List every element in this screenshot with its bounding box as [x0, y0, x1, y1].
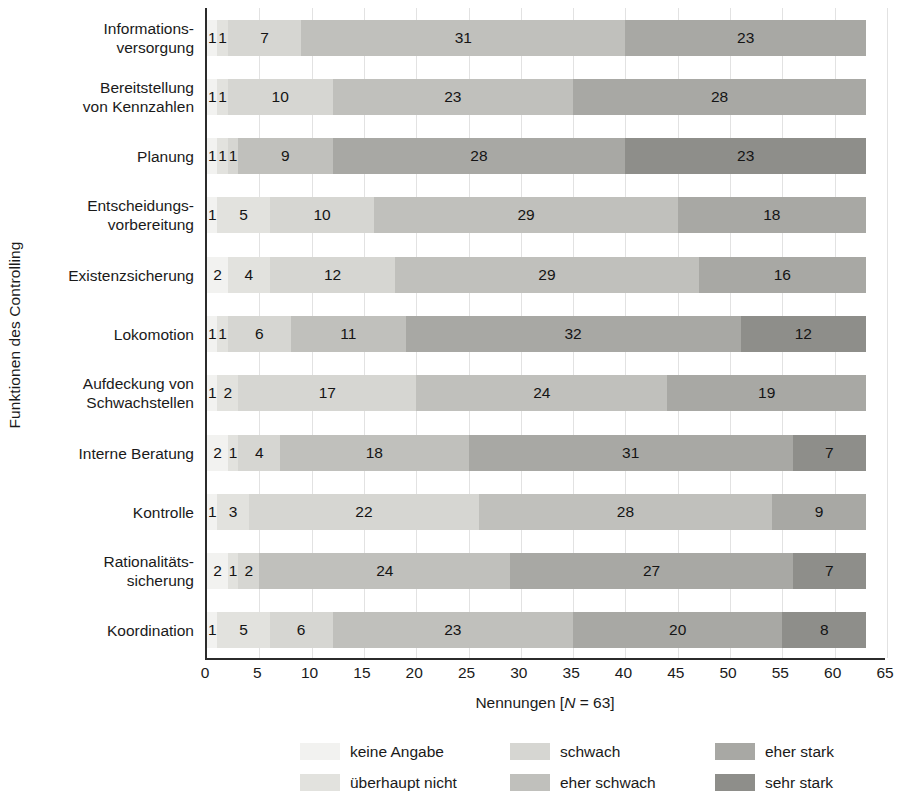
legend-item[interactable]: schwach	[510, 743, 715, 761]
bar-segment-value: 1	[229, 562, 238, 580]
bar-segment: 6	[228, 316, 291, 352]
category-label: Bereitstellung von Kennzahlen	[24, 78, 194, 116]
bar-segment: 1	[217, 138, 227, 174]
bar-segment-value: 2	[213, 444, 222, 462]
bar-segment-value: 9	[281, 147, 290, 165]
bar-segment-value: 31	[622, 444, 639, 462]
bar-segment-value: 2	[224, 384, 233, 402]
bar-segment: 1	[207, 494, 217, 530]
bar-segment: 7	[793, 553, 866, 589]
bar-segment: 20	[573, 612, 782, 648]
legend-swatch	[510, 774, 550, 791]
category-label: Lokomotion	[24, 325, 194, 344]
bar-segment: 2	[207, 553, 228, 589]
bar-segment: 12	[270, 257, 396, 293]
bar-segment: 1	[207, 316, 217, 352]
x-axis-ticks: 05101520253035404550556065	[205, 664, 885, 690]
x-axis-tick-label: 65	[876, 664, 893, 682]
legend-item[interactable]: keine Angabe	[300, 743, 510, 761]
legend-label: eher stark	[765, 743, 834, 761]
stacked-bar: 11192823	[207, 138, 866, 174]
bar-segment: 2	[238, 553, 259, 589]
bar-segment-value: 1	[208, 621, 217, 639]
bar-segment-value: 1	[208, 503, 217, 521]
category-label: Existenzsicherung	[24, 265, 194, 284]
bar-segment: 2	[217, 375, 238, 411]
bar-segment-value: 1	[218, 147, 227, 165]
bar-segment: 32	[406, 316, 741, 352]
bar-segment-value: 6	[297, 621, 306, 639]
legend-item[interactable]: überhaupt nicht	[300, 774, 510, 792]
stacked-bar: 21418317	[207, 435, 866, 471]
bar-segment: 3	[217, 494, 248, 530]
bar-segment: 29	[395, 257, 698, 293]
bar-segment: 23	[625, 138, 866, 174]
bar-segment: 24	[259, 553, 510, 589]
bar-segment: 8	[782, 612, 866, 648]
legend-item[interactable]: eher schwach	[510, 774, 715, 792]
stacked-bar: 1173123	[207, 20, 866, 56]
bar-segment: 23	[333, 79, 574, 115]
bar-segment-value: 2	[245, 562, 254, 580]
bar-segment: 5	[217, 197, 269, 233]
category-label: Rationalitäts- sicherung	[24, 552, 194, 590]
category-label: Informations- versorgung	[24, 19, 194, 57]
bar-segment: 7	[228, 20, 301, 56]
bar-segment-value: 5	[239, 206, 248, 224]
x-axis-tick-label: 20	[406, 664, 423, 682]
legend-swatch	[300, 743, 340, 760]
bar-segment-value: 4	[255, 444, 264, 462]
x-axis-title: Nennungen [N = 63]	[205, 694, 885, 712]
category-label: Koordination	[24, 621, 194, 640]
bar-segment-value: 1	[218, 325, 227, 343]
bar-segment-value: 18	[366, 444, 383, 462]
bar-segment-value: 7	[825, 562, 834, 580]
bar-segment-value: 23	[737, 29, 754, 47]
bar-segment-value: 24	[376, 562, 393, 580]
x-axis-tick-label: 10	[301, 664, 318, 682]
x-axis-title-before: Nennungen [	[475, 694, 564, 711]
bar-segment-value: 1	[208, 325, 217, 343]
bar-segment: 1	[207, 79, 217, 115]
x-axis-tick-label: 60	[824, 664, 841, 682]
bar-segment: 28	[573, 79, 866, 115]
stacked-bar: 11102328	[207, 79, 866, 115]
bar-segment-value: 22	[355, 503, 372, 521]
bar-segment-value: 1	[229, 147, 238, 165]
category-label: Entscheidungs- vorbereitung	[24, 196, 194, 234]
legend-item[interactable]: sehr stark	[715, 774, 900, 792]
legend-item[interactable]: eher stark	[715, 743, 900, 761]
bar-segment-value: 20	[669, 621, 686, 639]
stacked-bar: 15102918	[207, 197, 866, 233]
bar-segment: 16	[699, 257, 866, 293]
bar-segment: 1	[207, 138, 217, 174]
bar-segment-value: 1	[208, 384, 217, 402]
bar-segment: 2	[207, 435, 228, 471]
bar-segment-value: 28	[711, 88, 728, 106]
bar-segment-value: 18	[763, 206, 780, 224]
bar-segment: 5	[217, 612, 269, 648]
stacked-bar: 15623208	[207, 612, 866, 648]
bar-segment-value: 2	[213, 266, 222, 284]
bar-segment: 31	[469, 435, 793, 471]
bar-segment-value: 23	[737, 147, 754, 165]
bar-segment-value: 23	[444, 88, 461, 106]
bar-segment-value: 2	[213, 562, 222, 580]
bar-segment: 4	[228, 257, 270, 293]
bar-segment: 11	[291, 316, 406, 352]
bar-segment-value: 10	[272, 88, 289, 106]
bar-segment: 31	[301, 20, 625, 56]
bar-segment: 22	[249, 494, 479, 530]
category-label: Interne Beratung	[24, 443, 194, 462]
bar-segment-value: 17	[319, 384, 336, 402]
bar-segment-value: 24	[533, 384, 550, 402]
bar-segment: 18	[280, 435, 468, 471]
bar-segment-value: 1	[229, 444, 238, 462]
bar-segment: 6	[270, 612, 333, 648]
bar-segment: 1	[207, 20, 217, 56]
x-axis-tick-label: 45	[667, 664, 684, 682]
bar-segment-value: 16	[774, 266, 791, 284]
bar-segment: 23	[625, 20, 866, 56]
legend-swatch	[300, 774, 340, 791]
legend-label: überhaupt nicht	[350, 774, 457, 792]
